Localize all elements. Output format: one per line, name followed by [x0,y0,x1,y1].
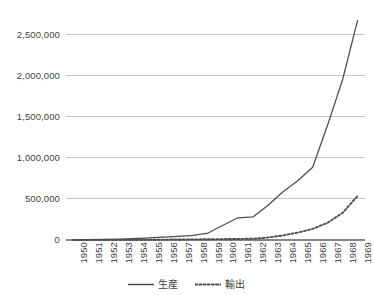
legend-swatch-solid-icon [128,280,154,289]
plot-svg [66,14,365,240]
legend-entry-2[interactable]: 輸出 [195,279,245,290]
chart-legend: 生産輸出 [0,275,373,293]
y-tick-label: 500,000 [0,194,60,204]
y-tick-label: 1,000,000 [0,153,60,163]
y-axis-labels: 0500,0001,000,0001,500,0002,000,0002,500… [0,0,60,295]
line-chart: 0500,0001,000,0001,500,0002,000,0002,500… [0,0,373,295]
legend-entry-1[interactable]: 生産 [128,279,178,290]
y-tick-label: 0 [0,235,60,245]
y-tick-label: 1,500,000 [0,112,60,122]
legend-swatch-dotted-icon [195,280,221,289]
y-tick-label: 2,500,000 [0,30,60,40]
y-tick-label: 2,000,000 [0,71,60,81]
legend-label: 輸出 [225,279,245,290]
legend-label: 生産 [158,279,178,290]
plot-area [66,14,365,240]
series-line-1 [73,21,357,240]
series-line-2 [73,196,357,240]
